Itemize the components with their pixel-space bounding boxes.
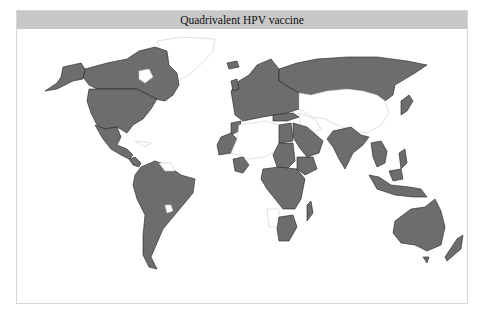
world-map [17, 29, 467, 303]
region-south-america [133, 161, 195, 269]
region-cuba [135, 141, 151, 147]
region-south-africa [277, 215, 297, 241]
map-figure: Quadrivalent HPV vaccine [16, 10, 468, 304]
region-borneo [389, 169, 403, 181]
region-madagascar [307, 201, 313, 221]
region-central-america [129, 157, 141, 167]
region-new-zealand [445, 235, 463, 261]
region-central-africa [261, 167, 305, 209]
region-australia [393, 199, 445, 251]
region-tasmania [423, 257, 429, 263]
title-bar: Quadrivalent HPV vaccine [17, 11, 467, 29]
region-namibia [267, 209, 279, 227]
region-india [327, 127, 369, 169]
region-japan [401, 95, 413, 115]
region-west-africa [233, 157, 249, 173]
map-title: Quadrivalent HPV vaccine [180, 14, 304, 26]
region-egypt [279, 123, 293, 143]
region-indochina [371, 141, 387, 167]
region-alaska [45, 63, 85, 91]
region-philippines [399, 149, 407, 169]
region-iceland [227, 61, 239, 69]
